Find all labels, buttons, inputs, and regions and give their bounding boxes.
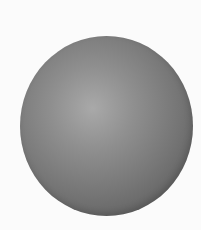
image-canvas: gray shaded sphere: [0, 0, 201, 230]
shaded-sphere: [20, 36, 193, 216]
